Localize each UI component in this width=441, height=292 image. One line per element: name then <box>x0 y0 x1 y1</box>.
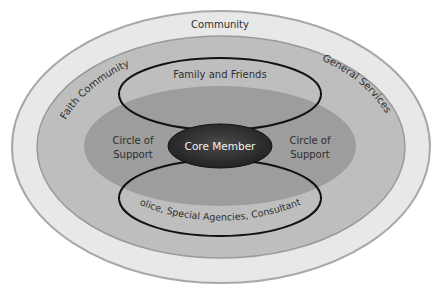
circle-of-support-right-line2: Support <box>290 149 330 160</box>
community-label: Community <box>191 19 249 30</box>
circle-of-support-right-line1: Circle of <box>290 135 331 146</box>
circles-of-support-diagram: Community Family and Friends Faith Commu… <box>0 0 441 292</box>
circle-of-support-left-line1: Circle of <box>113 135 154 146</box>
circle-of-support-left-line2: Support <box>113 149 153 160</box>
family-friends-label: Family and Friends <box>173 69 266 80</box>
core-member-label: Core Member <box>185 140 257 152</box>
